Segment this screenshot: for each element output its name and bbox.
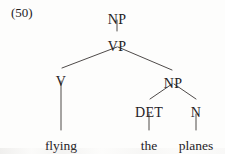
- tree-node-planes: planes: [179, 139, 214, 153]
- tree-node-np-root: NP: [108, 13, 126, 27]
- tree-node-v: V: [56, 75, 66, 89]
- syntax-tree-figure: (50) NPVPVNPDETNflyingtheplanes: [0, 0, 225, 154]
- tree-node-n: N: [191, 106, 201, 120]
- tree-node-vp: VP: [108, 40, 126, 54]
- tree-node-det: DET: [135, 106, 163, 120]
- tree-node-flying: flying: [45, 139, 77, 153]
- tree-node-np-obj: NP: [164, 77, 182, 91]
- tree-node-the: the: [141, 139, 158, 153]
